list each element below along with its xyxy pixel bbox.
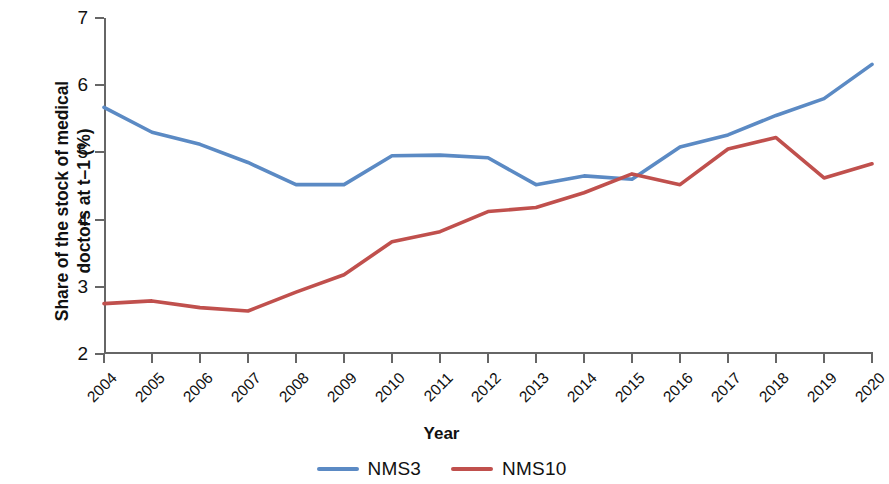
- series-line-nms3: [104, 64, 872, 184]
- y-tick-5: 5: [95, 151, 104, 153]
- y-tick-label-5: 5: [77, 141, 88, 163]
- x-tick-label-2008: 2008: [266, 369, 313, 416]
- y-tick-7: 7: [95, 17, 104, 19]
- x-tick-label-2004: 2004: [74, 369, 121, 416]
- legend-label-nms10: NMS10: [502, 458, 566, 480]
- y-tick-label-6: 6: [77, 74, 88, 96]
- legend-label-nms3: NMS3: [368, 458, 422, 480]
- x-tick-2017: [727, 354, 729, 363]
- y-tick-label-2: 2: [77, 343, 88, 365]
- x-tick-label-2013: 2013: [506, 369, 553, 416]
- x-tick-label-2014: 2014: [554, 369, 601, 416]
- x-tick-label-2009: 2009: [314, 369, 361, 416]
- x-tick-2008: [295, 354, 297, 363]
- x-tick-2007: [247, 354, 249, 363]
- x-tick-2011: [439, 354, 441, 363]
- x-tick-2014: [583, 354, 585, 363]
- y-tick-4: 4: [95, 219, 104, 221]
- x-tick-label-2018: 2018: [746, 369, 793, 416]
- y-axis-title: Share of the stock of medical doctors at…: [47, 36, 99, 366]
- x-tick-2018: [775, 354, 777, 363]
- x-tick-2012: [487, 354, 489, 363]
- x-tick-2016: [679, 354, 681, 363]
- x-tick-2020: [871, 354, 873, 363]
- x-tick-2006: [199, 354, 201, 363]
- y-tick-3: 3: [95, 286, 104, 288]
- x-axis-title: Year: [0, 424, 883, 444]
- x-tick-label-2015: 2015: [602, 369, 649, 416]
- legend-swatch-nms10: [451, 467, 493, 471]
- x-tick-label-2017: 2017: [698, 369, 745, 416]
- legend-swatch-nms3: [317, 467, 359, 471]
- legend-item-nms3[interactable]: NMS3: [317, 458, 422, 480]
- x-tick-2004: [103, 354, 105, 363]
- x-tick-label-2005: 2005: [122, 369, 169, 416]
- x-tick-2013: [535, 354, 537, 363]
- series-line-nms10: [104, 138, 872, 311]
- x-tick-2005: [151, 354, 153, 363]
- x-tick-label-2006: 2006: [170, 369, 217, 416]
- y-tick-6: 6: [95, 84, 104, 86]
- y-tick-label-7: 7: [77, 7, 88, 29]
- x-tick-2015: [631, 354, 633, 363]
- x-tick-label-2010: 2010: [362, 369, 409, 416]
- x-tick-label-2012: 2012: [458, 369, 505, 416]
- y-tick-label-4: 4: [77, 209, 88, 231]
- chart-legend: NMS3NMS10: [0, 458, 883, 480]
- plot-area: 234567 200420052006200720082009201020112…: [104, 18, 872, 353]
- x-tick-2009: [343, 354, 345, 363]
- x-tick-2010: [391, 354, 393, 363]
- x-tick-label-2007: 2007: [218, 369, 265, 416]
- y-axis-title-text: Share of the stock of medical doctors at…: [51, 81, 96, 321]
- x-tick-label-2020: 2020: [842, 369, 889, 416]
- x-tick-label-2011: 2011: [410, 369, 457, 416]
- x-tick-2019: [823, 354, 825, 363]
- x-tick-label-2016: 2016: [650, 369, 697, 416]
- legend-item-nms10[interactable]: NMS10: [451, 458, 566, 480]
- y-tick-label-3: 3: [77, 276, 88, 298]
- series-lines: [104, 18, 872, 354]
- x-tick-label-2019: 2019: [794, 369, 841, 416]
